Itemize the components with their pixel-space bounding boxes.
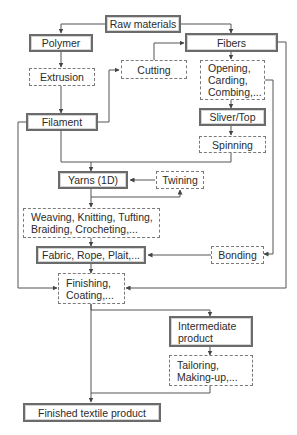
node-finishing-coating: Finishing, Coating,... — [58, 273, 125, 304]
edge-yarns-to-twining — [91, 189, 180, 197]
node-spinning: Spinning — [199, 136, 266, 153]
edge-finishing-to-intermediate — [91, 304, 210, 316]
node-sliver-top: Sliver/Top — [199, 108, 266, 126]
node-raw-materials: Raw materials — [105, 15, 181, 33]
node-cutting: Cutting — [121, 60, 187, 79]
edge-filament-to-cutting — [98, 70, 119, 122]
edge-tailoring-to-finished — [91, 386, 210, 393]
node-twining: Twining — [156, 171, 204, 189]
edge-raw-to-fibers — [181, 24, 231, 33]
edge-cutting-to-fibers — [154, 43, 184, 60]
node-fabric-rope-plait: Fabric, Rope, Plait,... — [36, 246, 146, 264]
textile-process-flowchart: Raw materials Polymer Fibers Extrusion C… — [0, 0, 297, 435]
node-finished-textile-product: Finished textile product — [23, 403, 161, 422]
node-extrusion: Extrusion — [29, 68, 95, 86]
node-polymer: Polymer — [29, 34, 93, 52]
node-opening-carding-combing: Opening, Carding, Combing,... — [200, 60, 265, 100]
node-weaving-knitting: Weaving, Knitting, Tufting, Braiding, Cr… — [23, 208, 160, 238]
node-intermediate-product: Intermediate product — [169, 316, 253, 347]
node-filament: Filament — [26, 113, 98, 131]
node-fibers: Fibers — [185, 33, 278, 52]
edge-opening-to-bonding — [264, 80, 273, 254]
node-tailoring-making-up: Tailoring, Making-up,... — [169, 355, 253, 386]
node-yarns: Yarns (1D) — [58, 171, 128, 189]
node-bonding: Bonding — [211, 246, 264, 264]
edge-raw-to-polymer — [61, 24, 105, 33]
